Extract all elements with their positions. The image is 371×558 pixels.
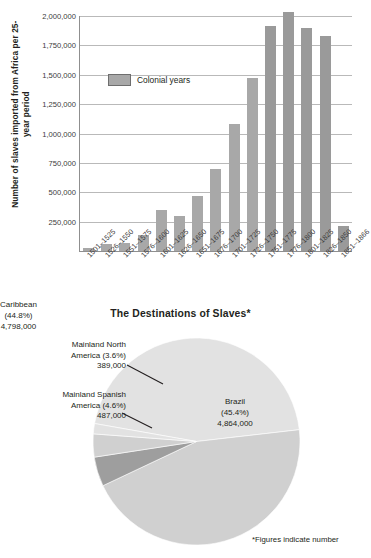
- label-line: 487,000: [0, 411, 126, 422]
- bar-1751-1775: [265, 26, 276, 251]
- label-line: Mainland Spanish: [0, 390, 126, 401]
- y-axis-tick-label: 1,500,000: [26, 70, 76, 79]
- label-line: America (3.6%): [4, 351, 126, 362]
- pie-chart-title: The Destinations of Slaves*: [0, 308, 361, 319]
- figure-footnote: *Figures indicate number: [252, 535, 339, 546]
- bar-1726-1750: [247, 78, 258, 251]
- legend-label-colonial-years: Colonial years: [137, 75, 190, 85]
- y-axis-tick-label: 250,000: [26, 217, 76, 226]
- pie-chart-figure: The Destinations of Slaves* Mainland Nor…: [0, 300, 361, 558]
- y-axis-tick-label: 1,750,000: [26, 41, 76, 50]
- label-line: 389,000: [4, 361, 126, 372]
- y-axis-tick-label: 1,000,000: [26, 129, 76, 138]
- label-line: Brazil: [185, 397, 285, 408]
- bar-1826-1850: [320, 36, 331, 251]
- label-line: (44.8%): [0, 311, 37, 322]
- y-axis-tick-label: 750,000: [26, 158, 76, 167]
- bar-chart-legend: Colonial years: [108, 74, 190, 86]
- pie-callout-mainland-north-america: Mainland NorthAmerica (3.6%)389,000: [4, 340, 126, 372]
- bar-chart-plot-area: [79, 16, 352, 252]
- label-line: Mainland North: [4, 340, 126, 351]
- y-axis-tick-label: 2,000,000: [26, 12, 76, 21]
- bar-chart-figure: Number of slaves imported from Africa pe…: [0, 0, 361, 300]
- pie-label-caribbean: Caribbean(44.8%)4,798,000: [0, 300, 37, 332]
- pie-label-brazil: Brazil(45.4%)4,864,000: [185, 397, 285, 429]
- bar-1801-1825: [301, 28, 312, 251]
- label-line: America (4.6%): [0, 401, 126, 412]
- label-line: 4,798,000: [0, 322, 37, 333]
- pie-callout-mainland-spanish-america: Mainland SpanishAmerica (4.6%)487,000: [0, 390, 126, 422]
- bar-chart-y-axis-ticks: 2,000,0001,750,0001,500,0001,250,0001,00…: [26, 9, 76, 257]
- bar-1776-1800: [283, 12, 294, 251]
- bar-chart-bars: [80, 16, 352, 251]
- y-axis-tick-label: 500,000: [26, 188, 76, 197]
- label-line: (45.4%): [185, 408, 285, 419]
- label-line: 4,864,000: [185, 419, 285, 430]
- bar-chart-x-axis-ticks: 1501–15251526–15501551–15751576–16001601…: [79, 253, 351, 303]
- label-line: Caribbean: [0, 300, 37, 311]
- y-axis-tick-label: 1,250,000: [26, 100, 76, 109]
- legend-swatch-colonial-years: [108, 74, 131, 86]
